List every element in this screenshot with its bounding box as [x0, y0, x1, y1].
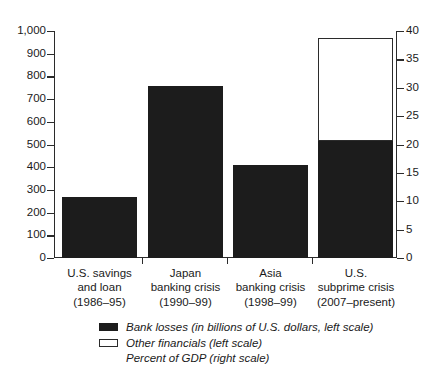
bar-japan-banking-crisis[interactable]: [148, 31, 223, 258]
bar-asia-banking-crisis[interactable]: [233, 31, 308, 258]
y-tick-mark: [47, 76, 54, 77]
y-axis-left: 1,000 900 800 700 600 500 400 300 200 10…: [0, 0, 46, 383]
category-line-1: U.S.: [301, 266, 411, 280]
y2-tick-mark: [397, 230, 404, 231]
y-tick-label: 100: [27, 229, 46, 241]
y2-tick-label: 20: [406, 139, 419, 151]
y-tick-label: 1,000: [17, 25, 46, 37]
legend-item-other-financials: Other financials (left scale): [99, 336, 419, 351]
legend-label: Bank losses (in billions of U.S. dollars…: [126, 321, 373, 333]
y2-tick-label: 35: [406, 53, 419, 65]
x-tick-mark: [142, 258, 143, 264]
y2-tick-mark: [397, 201, 404, 202]
y-tick-mark: [47, 235, 54, 236]
y2-tick-label: 15: [406, 167, 419, 179]
y2-tick-label: 10: [406, 195, 419, 207]
y-tick-label: 300: [27, 184, 46, 196]
y-tick-label: 0: [40, 252, 46, 264]
legend-item-percent-of-gdp: Percent of GDP (right scale): [99, 351, 419, 366]
legend-label: Other financials (left scale): [126, 337, 262, 349]
chart-figure: 1,000 900 800 700 600 500 400 300 200 10…: [0, 0, 448, 383]
category-line-3: (1986–95): [52, 295, 147, 309]
legend-swatch-blank-icon: [99, 354, 118, 362]
y-tick-label: 700: [27, 93, 46, 105]
y-tick-mark: [47, 54, 54, 55]
x-category-label-3: U.S. subprime crisis (2007–present): [301, 266, 411, 309]
y-tick-mark: [47, 31, 54, 32]
y2-tick-mark: [397, 59, 404, 60]
y-tick-mark: [47, 258, 54, 259]
bar-segment-other-financials: [318, 38, 393, 141]
y2-tick-mark: [397, 145, 404, 146]
y-tick-label: 200: [27, 207, 46, 219]
legend-item-bank-losses: Bank losses (in billions of U.S. dollars…: [99, 320, 419, 335]
bar-segment-bank-losses: [148, 86, 223, 259]
y-tick-mark: [47, 213, 54, 214]
y2-tick-label: 0: [406, 252, 412, 264]
y-tick-label: 400: [27, 161, 46, 173]
chart-legend: Bank losses (in billions of U.S. dollars…: [99, 320, 419, 367]
y2-tick-mark: [397, 173, 404, 174]
x-tick-mark: [312, 258, 313, 264]
bar-us-savings-and-loan[interactable]: [62, 31, 137, 258]
y2-tick-mark: [397, 31, 404, 32]
bar-segment-bank-losses: [62, 197, 137, 258]
legend-swatch-filled-icon: [99, 323, 118, 331]
category-line-3: (2007–present): [301, 295, 411, 309]
y2-tick-mark: [397, 88, 404, 89]
bar-segment-bank-losses: [233, 165, 308, 258]
y-tick-label: 600: [27, 116, 46, 128]
y-tick-label: 800: [27, 70, 46, 82]
y2-tick-label: 5: [406, 224, 412, 236]
y2-tick-label: 40: [406, 25, 419, 37]
y-tick-mark: [47, 167, 54, 168]
x-category-label-0: U.S. savings and loan (1986–95): [52, 266, 147, 309]
legend-swatch-open-icon: [99, 339, 118, 347]
bar-segment-bank-losses: [318, 141, 393, 258]
y2-tick-label: 30: [406, 82, 419, 94]
y2-tick-label: 25: [406, 110, 419, 122]
category-line-2: subprime crisis: [301, 280, 411, 294]
y2-tick-mark: [397, 258, 404, 259]
category-line-1: U.S. savings: [52, 266, 147, 280]
y2-tick-mark: [397, 116, 404, 117]
y-tick-mark: [47, 190, 54, 191]
bar-us-subprime-crisis[interactable]: [318, 31, 393, 258]
y-tick-mark: [47, 145, 54, 146]
y-tick-label: 500: [27, 139, 46, 151]
legend-label: Percent of GDP (right scale): [126, 352, 269, 364]
category-line-2: and loan: [52, 280, 147, 294]
y-tick-label: 900: [27, 48, 46, 60]
y-tick-mark: [47, 122, 54, 123]
x-tick-mark: [227, 258, 228, 264]
y-tick-mark: [47, 99, 54, 100]
